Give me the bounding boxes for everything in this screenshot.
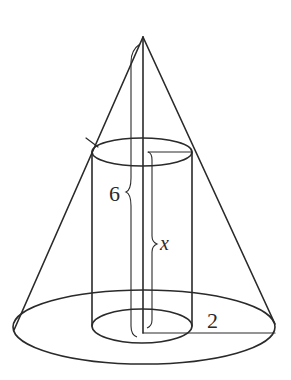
label-base-radius: 2 bbox=[207, 308, 218, 333]
cylinder-bottom-ellipse bbox=[92, 309, 192, 343]
cone-cylinder-diagram: 6 x 2 bbox=[0, 0, 291, 380]
cone-base-ellipse bbox=[13, 290, 275, 364]
cone-left-edge bbox=[14, 37, 143, 330]
label-cylinder-height: x bbox=[159, 232, 169, 254]
cone-right-edge bbox=[143, 37, 275, 324]
label-cone-height: 6 bbox=[109, 181, 120, 206]
height-6-brace bbox=[126, 44, 140, 337]
height-x-brace bbox=[147, 152, 157, 328]
